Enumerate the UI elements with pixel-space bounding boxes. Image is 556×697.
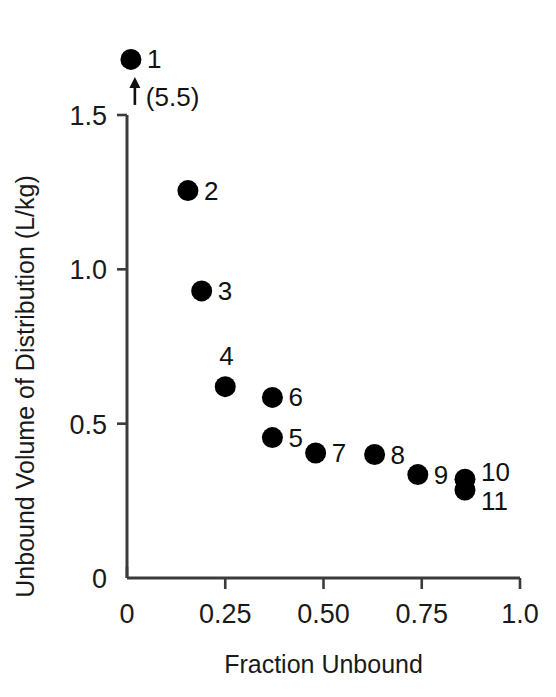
data-point-9[interactable] — [407, 464, 428, 485]
data-point-4[interactable] — [215, 376, 236, 397]
data-point-8[interactable] — [364, 444, 385, 465]
data-point-7[interactable] — [305, 442, 326, 463]
data-point-2[interactable] — [177, 180, 198, 201]
data-point-1[interactable] — [120, 49, 141, 70]
data-point-label-10: 10 — [481, 457, 510, 487]
data-point-label-2: 2 — [204, 176, 218, 206]
x-tick-label-0.25: 0.25 — [199, 599, 252, 629]
y-tick-label-0: 0 — [92, 564, 107, 594]
data-point-label-5: 5 — [288, 423, 302, 453]
plot-canvas: 00.51.01.500.250.500.751.0Fraction Unbou… — [0, 0, 556, 697]
data-point-6[interactable] — [262, 387, 283, 408]
data-point-11[interactable] — [454, 480, 475, 501]
x-axis-title: Fraction Unbound — [224, 650, 423, 678]
data-point-label-9: 9 — [434, 460, 448, 490]
data-point-label-3: 3 — [218, 276, 232, 306]
y-tick-label-1.0: 1.0 — [69, 255, 107, 285]
y-tick-label-1.5: 1.5 — [69, 101, 107, 131]
data-point-5[interactable] — [262, 427, 283, 448]
data-point-label-1: 1 — [147, 44, 161, 74]
offscale-value-label: (5.5) — [146, 82, 199, 112]
data-point-label-4: 4 — [219, 341, 233, 371]
data-point-label-6: 6 — [288, 382, 302, 412]
data-point-label-7: 7 — [332, 438, 346, 468]
y-axis-title: Unbound Volume of Distribution (L/kg) — [11, 175, 39, 597]
y-tick-label-0.5: 0.5 — [69, 410, 107, 440]
x-tick-label-0.75: 0.75 — [395, 599, 448, 629]
scatter-plot-figure: 00.51.01.500.250.500.751.0Fraction Unbou… — [0, 0, 556, 697]
x-tick-label-1.0: 1.0 — [501, 599, 539, 629]
data-point-3[interactable] — [191, 280, 212, 301]
data-point-label-8: 8 — [391, 440, 405, 470]
x-tick-label-0: 0 — [119, 599, 134, 629]
data-point-label-11: 11 — [481, 486, 508, 516]
x-tick-label-0.50: 0.50 — [297, 599, 350, 629]
offscale-arrow-head-icon — [129, 77, 140, 88]
